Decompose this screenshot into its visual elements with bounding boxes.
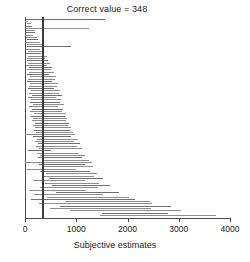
interval-bar — [27, 60, 49, 61]
correct-value-reference-line — [42, 17, 43, 218]
x-tick — [25, 218, 26, 222]
interval-bar — [46, 173, 97, 174]
chart-root: Correct value = 348 01000200030004000 Su… — [0, 0, 250, 262]
x-tick-label: 3000 — [169, 224, 188, 234]
interval-bar — [42, 160, 89, 161]
interval-bar — [27, 23, 31, 24]
interval-bar — [26, 19, 105, 20]
interval-bar — [35, 127, 71, 128]
interval-bar — [49, 178, 103, 179]
interval-bar — [40, 187, 98, 188]
interval-bar — [34, 130, 70, 131]
interval-bar — [27, 46, 72, 47]
x-axis-label: Subjective estimates — [0, 240, 240, 250]
interval-bar — [47, 197, 129, 198]
interval-bar — [31, 90, 60, 91]
interval-bar — [100, 215, 216, 216]
interval-bar — [28, 56, 47, 57]
interval-bar — [65, 201, 150, 202]
interval-bar — [31, 99, 61, 100]
interval-bar — [26, 30, 35, 31]
interval-bar — [32, 95, 62, 96]
interval-bar — [29, 93, 59, 94]
interval-bar — [27, 39, 39, 40]
interval-bar — [27, 44, 42, 45]
interval-bar — [31, 199, 135, 200]
interval-bar — [25, 26, 32, 27]
interval-bar — [50, 208, 151, 209]
interval-bar — [25, 134, 75, 135]
interval-bar — [39, 164, 85, 165]
interval-bar — [27, 69, 51, 70]
interval-bar — [38, 157, 82, 158]
interval-bar — [34, 113, 66, 114]
interval-bar — [27, 81, 52, 82]
interval-bar — [33, 125, 68, 126]
interval-bar — [33, 118, 67, 119]
x-tick — [76, 218, 77, 222]
interval-bar — [56, 192, 119, 193]
interval-bar — [38, 143, 81, 144]
interval-bar — [25, 42, 40, 43]
interval-bar — [28, 150, 51, 151]
interval-bar — [30, 111, 62, 112]
interval-bar — [32, 120, 66, 121]
x-tick-label: 1000 — [67, 224, 86, 234]
interval-bar — [30, 102, 61, 103]
x-tick — [179, 218, 180, 222]
x-tick-label: 2000 — [118, 224, 137, 234]
interval-bar — [35, 123, 69, 124]
interval-bar — [27, 169, 76, 170]
interval-bar — [33, 180, 85, 181]
interval-bar — [32, 109, 63, 110]
interval-bar — [33, 104, 64, 105]
interval-bar — [25, 162, 92, 163]
interval-bar — [40, 171, 89, 172]
interval-bar — [30, 83, 58, 84]
x-tick-label: 4000 — [221, 224, 240, 234]
interval-bar — [70, 210, 181, 211]
interval-bar — [26, 28, 89, 29]
interval-bar — [31, 116, 65, 117]
interval-bar — [33, 136, 71, 137]
interval-bar — [28, 88, 54, 89]
interval-bar — [102, 213, 168, 214]
interval-bar — [43, 166, 92, 167]
interval-bar — [29, 190, 86, 191]
interval-bar — [60, 206, 171, 207]
interval-bar — [35, 141, 74, 142]
x-tick-label: 0 — [23, 224, 28, 234]
interval-bar — [52, 185, 110, 186]
interval-bar — [25, 21, 28, 22]
interval-bar — [34, 194, 103, 195]
interval-bar — [39, 203, 152, 204]
interval-bar — [39, 148, 83, 149]
interval-bar — [28, 63, 50, 64]
interval-bar — [26, 49, 40, 50]
x-tick — [128, 218, 129, 222]
interval-bar — [43, 176, 94, 177]
interval-bar — [29, 67, 52, 68]
interval-bar — [25, 35, 33, 36]
interval-bar — [45, 183, 99, 184]
interval-bar — [27, 74, 50, 75]
chart-title: Correct value = 348 — [0, 4, 232, 14]
interval-bar — [26, 53, 41, 54]
x-tick — [230, 218, 231, 222]
interval-bar — [26, 37, 37, 38]
interval-bar — [26, 32, 35, 33]
interval-bar — [40, 155, 85, 156]
